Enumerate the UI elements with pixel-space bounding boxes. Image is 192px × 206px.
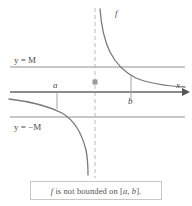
label-point-b: b — [128, 96, 133, 106]
x-axis-label: x — [175, 80, 180, 90]
caption-suffix: ]. — [136, 186, 141, 196]
caption-middle-text: is not bounded on [ — [53, 186, 123, 196]
caption-box: f is not bounded on [a, b]. — [30, 181, 162, 200]
x-axis-arrowhead — [182, 88, 190, 96]
curve-right-branch — [100, 9, 185, 87]
curve-left-branch — [9, 99, 88, 175]
curve-function-label: f — [115, 8, 119, 18]
lower-bound-label: y = −M — [14, 122, 41, 132]
figure-container: f y = M y = −M a b x f is not bounded on… — [0, 0, 192, 206]
asymptote-point-marker — [93, 80, 98, 85]
unbounded-function-graph: f y = M y = −M a b x — [0, 0, 192, 206]
upper-bound-label: y = M — [14, 55, 36, 65]
label-point-a: a — [53, 80, 58, 90]
caption-text: f is not bounded on [a, b]. — [51, 186, 142, 196]
